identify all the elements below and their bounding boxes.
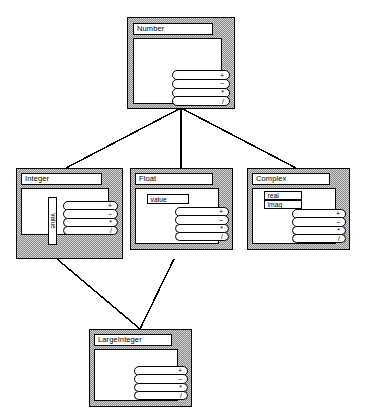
class-title-complex: Complex [252,173,330,185]
class-title-number: Number [133,23,213,35]
edge-number-integer [66,108,181,168]
edge-float-largeinteger [140,259,174,329]
attribute-field-imag[interactable]: imag [264,200,302,209]
operation-pill[interactable]: / [172,96,230,106]
class-title-integer: Integer [21,173,102,185]
attribute-field-real[interactable]: real [264,191,302,200]
attribute-field-value[interactable]: value [48,197,57,245]
operation-stack-largeinteger: + − * / [134,366,188,399]
edge-number-complex [181,108,296,168]
operation-pill[interactable]: / [175,232,229,242]
class-diagram-canvas: Number + − * / Integer value [0,0,366,415]
operation-stack-number: + − * / [172,70,230,105]
operation-pill[interactable]: / [63,226,118,236]
attribute-field-value[interactable]: value [147,194,189,204]
class-box-number[interactable]: Number + − * / [127,17,235,109]
class-title-largeinteger: LargeInteger [94,334,172,346]
operation-pill[interactable]: / [292,234,346,244]
class-box-largeinteger[interactable]: LargeInteger + − * / [89,329,192,407]
operation-stack-integer: + − * / [63,201,118,234]
class-title-float: Float [135,173,213,185]
operation-pill[interactable]: / [134,391,188,401]
edge-integer-largeinteger [57,259,140,329]
class-box-complex[interactable]: Complex real imag + − * / [247,168,350,250]
class-box-float[interactable]: Float value + − * / [130,168,233,250]
operation-stack-complex: + − * / [292,209,346,242]
class-box-integer[interactable]: Integer value + − * / [16,168,123,259]
operation-stack-float: + − * / [175,207,229,240]
